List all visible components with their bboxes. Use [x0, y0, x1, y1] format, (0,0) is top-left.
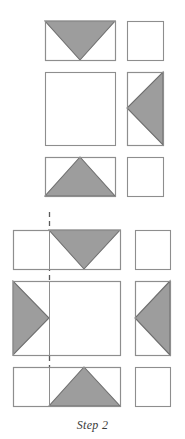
row-3-left-shape — [45, 157, 116, 197]
row-2-left-shape-outline — [46, 73, 116, 146]
row-1 — [45, 21, 164, 61]
row-6-right-shape — [136, 368, 171, 407]
row-2-left-shape — [46, 73, 116, 146]
row-4-right-shape-outline — [136, 231, 171, 270]
row-2 — [46, 72, 164, 146]
figure-caption: Step 2 — [0, 418, 185, 433]
row-5 — [13, 281, 171, 356]
row-6-right-shape-outline — [136, 368, 171, 407]
upper-sequence — [45, 21, 164, 197]
row-3-right-shape — [128, 158, 164, 197]
row-5-right-shape — [135, 281, 171, 356]
row-1-right-shape — [128, 22, 164, 61]
row-4-left-shape — [14, 230, 121, 270]
row-6-left-shape — [14, 367, 121, 407]
row-1-left-shape — [45, 21, 116, 61]
lower-sequence — [13, 212, 171, 410]
row-6 — [14, 367, 171, 407]
row-1-right-shape-outline — [128, 22, 164, 61]
row-3 — [45, 157, 164, 197]
row-4 — [14, 230, 171, 270]
row-5-left-shape — [13, 281, 121, 356]
figure-canvas — [0, 0, 185, 439]
row-4-right-shape — [136, 231, 171, 270]
row-2-right-shape — [127, 72, 164, 146]
paper-folding-figure: Step 2 — [0, 0, 185, 439]
row-3-right-shape-outline — [128, 158, 164, 197]
